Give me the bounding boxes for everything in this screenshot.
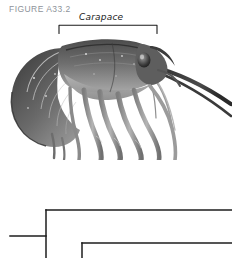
crustacean-photo [0, 30, 232, 160]
crustacean-illustration [0, 30, 232, 160]
figure-a33-2: FIGURE A33.2 Carapace [0, 0, 232, 165]
carapace-annotation-label: Carapace [79, 12, 123, 22]
cladogram-diagram [0, 180, 232, 258]
figure-a33-3: FIGURE A33.3 Platyhelminthes Turbellaria [0, 180, 232, 258]
eye [138, 53, 151, 68]
figure-page: FIGURE A33.2 Carapace [0, 0, 232, 258]
figure-label-1: FIGURE A33.2 [9, 4, 71, 14]
